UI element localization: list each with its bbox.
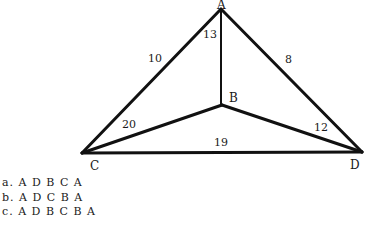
edge-c-d — [82, 152, 362, 153]
weight-b-c: 20 — [122, 118, 136, 131]
edge-a-d — [221, 9, 362, 152]
answer-options: a. A D B C A b. A D C B A c. A D B C B A — [2, 176, 96, 220]
edge-b-c — [82, 105, 222, 153]
option-letter: c. — [2, 205, 14, 218]
option-letter: b. — [2, 191, 15, 204]
edge-a-c — [82, 9, 221, 153]
option-a: a. A D B C A — [2, 176, 96, 191]
edge-b-d — [222, 105, 362, 152]
weight-a-b: 13 — [203, 28, 217, 41]
option-path: A D B C A — [19, 176, 83, 189]
option-c: c. A D B C B A — [2, 205, 96, 220]
option-b: b. A D C B A — [2, 191, 96, 206]
option-path: A D C B A — [19, 191, 83, 204]
option-path: A D B C B A — [18, 205, 96, 218]
vertex-b-label: B — [229, 91, 238, 105]
weight-c-d: 19 — [214, 136, 228, 149]
weight-a-d: 8 — [285, 53, 292, 66]
vertex-a-label: A — [216, 0, 226, 12]
weight-b-d: 12 — [314, 121, 328, 134]
vertex-c-label: C — [90, 159, 99, 173]
option-letter: a. — [2, 176, 14, 189]
weight-a-c: 10 — [148, 52, 162, 65]
vertex-d-label: D — [350, 158, 360, 172]
